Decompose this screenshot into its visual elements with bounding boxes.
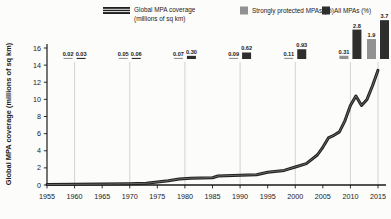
y-axis-title: Global MPA coverage (millions of sq km): [4, 42, 13, 185]
bar-all-mpas-2015: [380, 20, 389, 59]
y-tick-label-14: 14: [33, 61, 41, 70]
bar-strongly-protected-2015: [367, 39, 376, 59]
y-tick-label-6: 6: [37, 129, 41, 138]
bar-all-mpas-2000: [297, 49, 306, 59]
global-mpa-coverage-line-core: [47, 70, 378, 184]
bar-label-strongly-1970: 0.05: [118, 51, 129, 57]
bar-all-mpas-1990: [242, 52, 251, 59]
bar-label-all-1980: 0.30: [186, 49, 197, 55]
legend-line-label-2: (millions of sq km): [134, 15, 186, 23]
bar-all-mpas-2010: [352, 30, 361, 59]
y-tick-label-8: 8: [37, 112, 41, 121]
y-tick-label-4: 4: [37, 146, 41, 155]
bar-label-strongly-2010: 0.31: [338, 49, 349, 55]
y-tick-label-10: 10: [33, 95, 41, 104]
bar-label-all-1990: 0.62: [241, 45, 252, 51]
bar-label-all-1970: 0.06: [131, 51, 142, 57]
x-tick-label-2015: 2015: [370, 192, 386, 201]
global-mpa-coverage-line: [47, 70, 378, 184]
bar-strongly-protected-2010: [339, 56, 348, 59]
bar-strongly-protected-2000: [284, 58, 293, 59]
x-tick-label-1990: 1990: [232, 192, 248, 201]
x-tick-label-1965: 1965: [94, 192, 110, 201]
bar-label-strongly-1990: 0.09: [228, 51, 239, 57]
mpa-chart: Global MPA coverage (millions of sq km) …: [0, 0, 391, 219]
y-tick-label-2: 2: [37, 163, 41, 172]
bar-label-strongly-2015: 1.9: [368, 32, 376, 38]
x-tick-label-2005: 2005: [315, 192, 331, 201]
bar-label-strongly-1980: 0.07: [173, 51, 184, 57]
y-tick-label-12: 12: [33, 78, 41, 87]
legend-all-label: All MPAs (%): [334, 7, 371, 15]
x-tick-label-1955: 1955: [39, 192, 55, 201]
strongly-protected-swatch-icon: [240, 7, 248, 15]
x-tick-label-1985: 1985: [205, 192, 221, 201]
x-tick-label-1995: 1995: [260, 192, 276, 201]
coverage-line: [47, 70, 378, 184]
bar-value-labels: 0.020.030.050.060.070.300.090.620.110.93…: [63, 13, 389, 57]
x-tick-label-1960: 1960: [67, 192, 83, 201]
mpa-growth-figure: Global MPA coverage (millions of sq km) …: [0, 0, 391, 219]
x-tick-label-1975: 1975: [149, 192, 165, 201]
legend-strong-label: Strongly protected MPAs (%): [252, 7, 334, 15]
bar-label-strongly-2000: 0.11: [283, 51, 294, 57]
bar-all-mpas-1970: [132, 58, 141, 59]
legend: Global MPA coverage (millions of sq km) …: [103, 6, 371, 23]
y-tick-label-16: 16: [33, 44, 41, 53]
bar-strongly-protected-1980: [174, 58, 183, 59]
x-tick-label-2010: 2010: [342, 192, 358, 201]
line-series-swatch-icon: [103, 7, 130, 14]
legend-line-label-1: Global MPA coverage: [134, 6, 196, 14]
bar-label-all-2000: 0.93: [296, 42, 307, 48]
bar-label-all-1960: 0.03: [76, 51, 87, 57]
bar-all-mpas-1960: [77, 58, 86, 59]
bar-strongly-protected-1990: [229, 58, 238, 59]
decade-gridlines: [75, 62, 378, 185]
bar-strongly-protected-1960: [64, 58, 73, 59]
bar-label-all-2010: 2.8: [353, 23, 361, 29]
all-mpas-swatch-icon: [322, 7, 330, 15]
x-tick-label-2000: 2000: [287, 192, 303, 201]
x-tick-label-1970: 1970: [122, 192, 138, 201]
bar-strongly-protected-1970: [119, 58, 128, 59]
bar-all-mpas-1980: [187, 56, 196, 59]
bar-label-all-2015: 3.7: [381, 13, 389, 19]
x-tick-label-1980: 1980: [177, 192, 193, 201]
bar-label-strongly-1960: 0.02: [63, 51, 74, 57]
y-tick-label-0: 0: [37, 181, 41, 190]
